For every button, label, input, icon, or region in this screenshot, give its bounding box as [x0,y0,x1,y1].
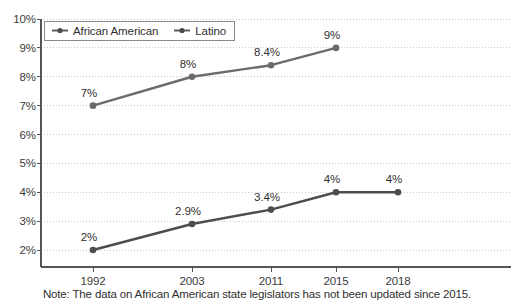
legend-label: African American [73,25,158,37]
data-point-label: 9% [324,29,340,41]
legend-item-african-american[interactable]: African American [52,25,158,37]
chart-footnote: Note: The data on African American state… [0,288,514,300]
legend-item-latino[interactable]: Latino [174,25,226,37]
data-point-label: 3.4% [254,191,280,203]
data-point-label: 7% [81,87,97,99]
data-labels: 7%8%8.4%9%2%2.9%3.4%4%4% [0,0,514,308]
line-chart: 2%3%4%5%6%7%8%9%10% 19922003201120152018… [0,0,514,308]
data-point-label: 4% [324,173,340,185]
legend-label: Latino [195,25,226,37]
line-dot-marker-icon [52,26,68,35]
line-dot-marker-icon [174,26,190,35]
data-point-label: 8% [180,58,196,70]
chart-legend: African American Latino [44,21,235,41]
data-point-label: 2% [81,231,97,243]
data-point-label: 8.4% [254,46,280,58]
data-point-label: 4% [386,173,402,185]
data-point-label: 2.9% [175,205,201,217]
